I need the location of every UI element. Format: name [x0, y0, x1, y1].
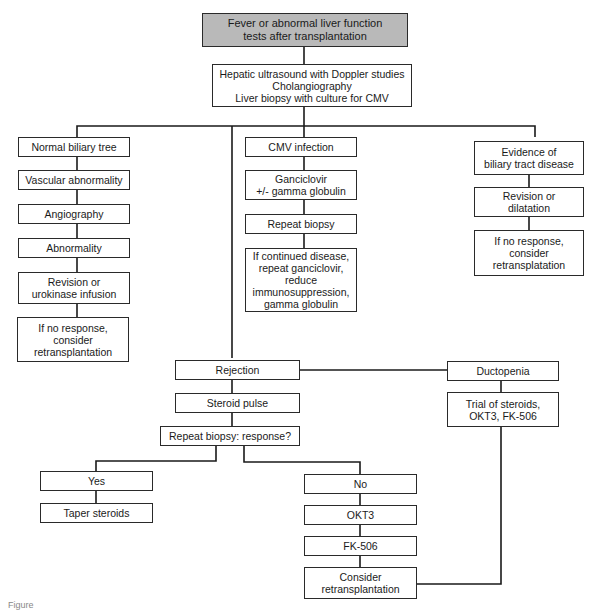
rejection-node: Rejection: [175, 360, 300, 380]
repeat-biopsy-response-node: Repeat biopsy: response?: [160, 426, 300, 446]
normal-biliary-node: Normal biliary tree: [18, 137, 130, 157]
yes-node: Yes: [40, 471, 153, 491]
no-node: No: [304, 474, 417, 494]
okt3-node: OKT3: [304, 505, 417, 525]
continued-disease-node: If continued disease, repeat ganciclovir…: [245, 248, 357, 312]
ganciclovir-node: Ganciclovir +/- gamma globulin: [245, 170, 357, 200]
biliary-disease-node: Evidence of biliary tract disease: [474, 141, 584, 175]
left-retransplant-node: If no response, consider retransplantati…: [17, 317, 129, 362]
root-node: Fever or abnormal liver function tests a…: [202, 13, 408, 47]
revision-urokinase-node: Revision or urokinase infusion: [18, 272, 130, 304]
fk506-node: FK-506: [304, 536, 417, 556]
taper-steroids-node: Taper steroids: [40, 503, 153, 523]
no-retransplant-node: Consider retransplantation: [304, 567, 417, 599]
vascular-abnormality-node: Vascular abnormality: [18, 170, 130, 190]
repeat-biopsy-cmv-node: Repeat biopsy: [245, 214, 357, 234]
abnormality-node: Abnormality: [18, 238, 130, 258]
ductopenia-node: Ductopenia: [447, 361, 559, 381]
trial-steroids-node: Trial of steroids, OKT3, FK-506: [447, 392, 559, 427]
workup-node: Hepatic ultrasound with Doppler studies …: [212, 64, 412, 107]
cmv-infection-node: CMV infection: [245, 137, 357, 157]
revision-dilatation-node: Revision or dilatation: [474, 187, 584, 217]
steroid-pulse-node: Steroid pulse: [175, 393, 300, 413]
biliary-retransplant-node: If no response, consider retransplatatio…: [474, 230, 584, 276]
angiography-node: Angiography: [18, 204, 130, 224]
figure-caption: Figure: [8, 600, 34, 610]
